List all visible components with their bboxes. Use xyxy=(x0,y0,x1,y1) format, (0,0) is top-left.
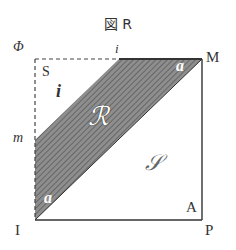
label-m: m xyxy=(13,131,23,145)
diagram xyxy=(0,0,236,250)
label-phi: Φ xyxy=(13,40,24,54)
label-a-corner: A xyxy=(186,200,197,215)
label-p-corner: P xyxy=(205,223,213,238)
label-i-top: i xyxy=(115,42,119,55)
label-a-top: a xyxy=(176,58,184,74)
label-region-r: ℛ xyxy=(88,103,109,129)
label-i-left: i xyxy=(56,82,61,100)
label-m-corner: M xyxy=(206,50,219,65)
label-s: S xyxy=(42,65,50,79)
label-region-s: 𝒮 xyxy=(145,152,162,174)
label-i-corner: I xyxy=(15,223,20,238)
label-a-bottom: a xyxy=(44,190,52,206)
